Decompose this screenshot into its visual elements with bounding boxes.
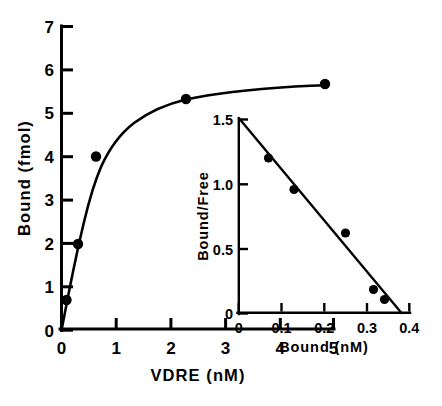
inset-data-points	[264, 153, 389, 304]
inset-x-tick-label: 0.1	[271, 320, 291, 336]
inset-y-tick-label: 0.5	[213, 242, 233, 258]
main-y-tick-label: 0	[45, 322, 54, 341]
inset-x-tick-label: 0.4	[399, 320, 419, 336]
main-y-tick-label: 7	[45, 18, 54, 37]
main-data-point	[73, 239, 83, 249]
inset-x-ticks	[239, 303, 409, 312]
inset-y-tick-label: 0	[225, 306, 233, 322]
inset-regression-line	[239, 118, 402, 313]
main-y-tick-labels: 7 6 5 4 3 2 1 0	[45, 18, 55, 341]
main-x-tick-label: 2	[166, 339, 175, 358]
inset-data-point	[380, 295, 389, 304]
inset-x-tick-label: 0.2	[314, 320, 334, 336]
inset-data-point	[264, 153, 273, 162]
main-data-point	[61, 295, 71, 305]
plot-canvas: 7 6 5 4 3 2 1 0 0 1 2	[0, 0, 442, 406]
main-x-tick-label: 0	[57, 339, 66, 358]
main-x-tick-label: 3	[221, 339, 230, 358]
main-y-tick-label: 5	[45, 104, 54, 123]
inset-x-tick-label: 0	[235, 320, 243, 336]
main-data-point	[320, 79, 330, 89]
inset-y-axis-title: Bound/Free	[195, 171, 211, 261]
inset-y-tick-labels: 1.5 1.0 0.5 0	[213, 112, 233, 322]
main-saturation-curve	[62, 85, 327, 330]
inset-data-point	[341, 228, 350, 237]
inset-y-tick-label: 1.5	[213, 112, 233, 128]
main-data-point	[181, 94, 191, 104]
main-x-axis-title: VDRE (nM)	[150, 366, 245, 384]
main-y-tick-label: 2	[45, 235, 54, 254]
inset-y-ticks	[239, 120, 248, 314]
main-y-tick-label: 1	[45, 278, 54, 297]
inset-x-axis-title: Bound (nM)	[279, 339, 369, 355]
inset-plot: 1.5 1.0 0.5 0 0 0.1 0.2 0.3 0.4	[195, 112, 419, 355]
inset-y-tick-label: 1.0	[213, 177, 233, 193]
main-y-axis-title: Bound (fmol)	[15, 120, 33, 236]
main-y-tick-label: 3	[45, 191, 54, 210]
main-data-point	[91, 151, 101, 161]
main-y-tick-label: 6	[45, 61, 54, 80]
main-x-ticks	[62, 318, 334, 328]
inset-data-point	[289, 185, 298, 194]
main-y-tick-label: 4	[45, 148, 55, 167]
binding-assay-figure: 7 6 5 4 3 2 1 0 0 1 2	[0, 0, 442, 406]
main-x-tick-label: 1	[111, 339, 120, 358]
inset-x-tick-label: 0.3	[357, 320, 377, 336]
inset-data-point	[369, 285, 378, 294]
